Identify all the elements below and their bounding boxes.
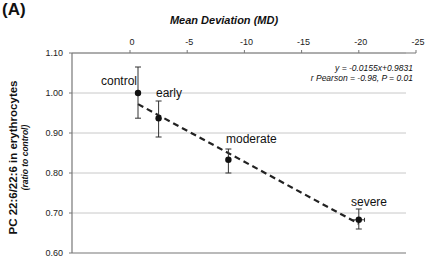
point-label: control [101,74,137,88]
x-tick-label: -20 [354,37,367,47]
x-tick-label: -5 [185,37,193,47]
x-tick-label: 0 [129,37,134,47]
regression-equation: y = -0.0155x+0.9831r Pearson = -0.98, P … [311,63,414,83]
x-tick-label: -15 [297,37,310,47]
data-points: controlearlymoderatesevere [101,67,387,229]
marker [155,115,161,121]
y-tick-label: 1.10 [45,48,63,58]
y-axis-ticks: 1.101.000.900.800.700.60 [45,48,72,258]
marker [356,217,362,223]
x-tick-label: -10 [240,37,253,47]
point-label: moderate [226,132,277,146]
data-point-moderate: moderate [225,132,277,173]
y-tick-label: 0.80 [45,168,63,178]
scatter-plot: 0-5-10-15-20-25 1.101.000.900.800.700.60… [0,0,428,265]
marker [225,157,231,163]
y-tick-label: 0.90 [45,128,63,138]
x-tick-label: -25 [411,37,424,47]
marker [135,90,141,96]
regression-equation-text: y = -0.0155x+0.9831 [334,63,413,73]
x-axis-ticks: 0-5-10-15-20-25 [129,37,424,53]
point-label: early [156,86,182,100]
regression-line [138,104,359,224]
data-point-severe: severe [351,195,387,229]
data-point-early: early [155,86,182,137]
y-tick-label: 0.60 [45,248,63,258]
y-tick-label: 1.00 [45,88,63,98]
regression-stats-text: r Pearson = -0.98, P = 0.01 [311,73,413,83]
regression-dashed-line [138,104,359,224]
y-tick-label: 0.70 [45,208,63,218]
point-label: severe [351,195,387,209]
